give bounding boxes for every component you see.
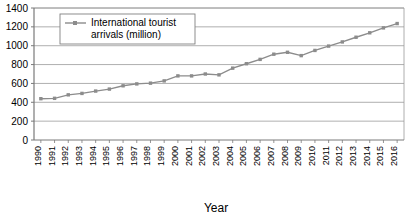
data-point-marker [313, 49, 316, 52]
x-tick-label: 1996 [115, 146, 125, 166]
x-tick-label: 2008 [280, 146, 290, 166]
x-tick-label: 2011 [321, 146, 331, 165]
data-point-marker [121, 84, 124, 87]
x-tick-label: 2007 [266, 146, 276, 166]
x-axis-tick-labels: 1990199119921993199419951996199719981999… [33, 146, 399, 166]
y-tick-label: 600 [11, 78, 28, 89]
y-tick-label: 1200 [6, 21, 29, 32]
line-chart: 0200400600800100012001400 19901991199219… [0, 0, 419, 220]
x-tick-label: 1997 [129, 146, 139, 166]
data-point-marker [39, 97, 42, 100]
x-tick-label: 2000 [170, 146, 180, 166]
data-point-marker [368, 31, 371, 34]
x-tick-label: 1991 [47, 146, 57, 166]
data-point-marker [94, 89, 97, 92]
data-point-marker [190, 74, 193, 77]
data-point-marker [245, 62, 248, 65]
data-point-marker [231, 66, 234, 69]
y-tick-label: 1000 [6, 40, 29, 51]
y-tick-label: 200 [11, 116, 28, 127]
data-point-marker [162, 79, 165, 82]
data-point-marker [149, 81, 152, 84]
data-point-marker [108, 87, 111, 90]
data-point-marker [382, 26, 385, 29]
x-tick-label: 2012 [334, 146, 344, 166]
legend-label-line2: arrivals (million) [91, 29, 161, 40]
data-point-marker [176, 74, 179, 77]
x-tick-label: 2004 [225, 146, 235, 166]
data-point-marker [67, 93, 70, 96]
x-tick-label: 2003 [211, 146, 221, 166]
data-point-marker [300, 54, 303, 57]
data-point-marker [217, 73, 220, 76]
data-point-marker [80, 92, 83, 95]
data-point-marker [327, 44, 330, 47]
x-tick-label: 2005 [238, 146, 248, 166]
x-tick-label: 2001 [184, 146, 194, 166]
legend-marker-swatch [73, 21, 77, 25]
data-point-marker [135, 82, 138, 85]
y-tick-label: 800 [11, 59, 28, 70]
data-point-marker [354, 36, 357, 39]
data-point-marker [395, 22, 398, 25]
x-tick-label: 2006 [252, 146, 262, 166]
x-tick-label: 1994 [88, 146, 98, 166]
x-tick-label: 2002 [197, 146, 207, 166]
y-tick-label: 1400 [6, 3, 29, 14]
chart-container: 0200400600800100012001400 19901991199219… [0, 0, 419, 220]
x-tick-label: 2009 [293, 146, 303, 166]
x-tick-label: 2016 [389, 146, 399, 166]
chart-legend: International tourist arrivals (million) [60, 14, 195, 44]
data-point-marker [53, 97, 56, 100]
x-axis-title: Year [204, 201, 228, 215]
legend-label-line1: International tourist [91, 17, 176, 28]
x-tick-label: 1990 [33, 146, 43, 166]
x-tick-label: 1995 [101, 146, 111, 166]
x-tick-label: 1998 [142, 146, 152, 166]
y-tick-label: 0 [22, 135, 28, 146]
x-tick-label: 1992 [60, 146, 70, 166]
x-tick-label: 1993 [74, 146, 84, 166]
data-point-marker [341, 40, 344, 43]
y-axis-tick-labels: 0200400600800100012001400 [6, 3, 29, 146]
x-tick-label: 2014 [362, 146, 372, 166]
x-tick-label: 1999 [156, 146, 166, 166]
data-point-marker [204, 72, 207, 75]
x-tick-label: 2015 [375, 146, 385, 166]
x-tick-label: 2010 [307, 146, 317, 166]
x-tick-label: 2013 [348, 146, 358, 166]
y-tick-label: 400 [11, 97, 28, 108]
data-point-marker [286, 51, 289, 54]
data-point-marker [272, 53, 275, 56]
data-point-marker [258, 58, 261, 61]
